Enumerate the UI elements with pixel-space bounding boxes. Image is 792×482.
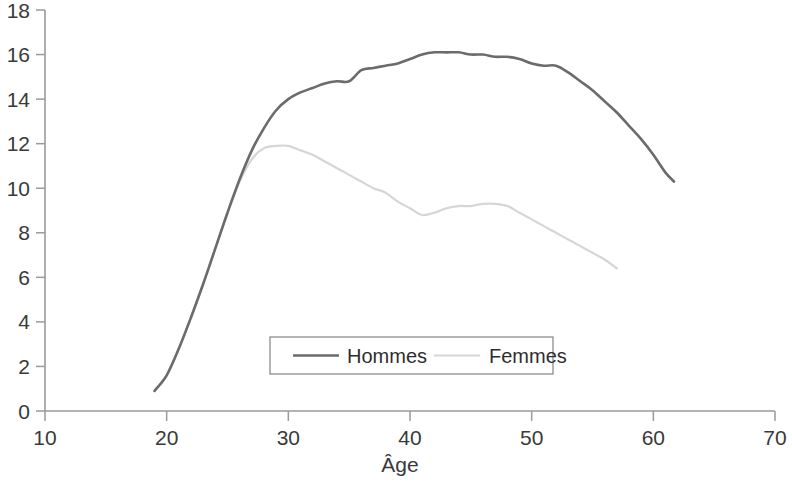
x-axis-tick-label: 10 (33, 426, 56, 449)
y-axis-tick-label: 16 (7, 43, 30, 66)
chart-canvas: 024681012141618 10203040506070 HommesFem… (0, 0, 792, 482)
x-axis-tick-label: 70 (763, 426, 786, 449)
x-axis-tick-label: 40 (398, 426, 421, 449)
x-axis-tick-label: 50 (520, 426, 543, 449)
x-axis-tick-label: 30 (277, 426, 300, 449)
x-axis-title: Âge (381, 453, 418, 476)
y-axis-tick-label: 18 (7, 0, 30, 22)
x-axis-tick-label: 60 (642, 426, 665, 449)
y-axis: 024681012141618 (7, 0, 45, 423)
y-axis-tick-label: 12 (7, 132, 30, 155)
chart-legend: HommesFemmes (270, 337, 567, 374)
y-axis-tick-label: 10 (7, 177, 30, 200)
x-axis: 10203040506070 (33, 411, 786, 449)
y-axis-tick-label: 2 (18, 355, 30, 378)
y-axis-tick-label: 4 (18, 310, 30, 333)
legend-label-hommes: Hommes (347, 345, 427, 367)
plot-area: 024681012141618 10203040506070 HommesFem… (7, 0, 787, 476)
x-axis-tick-label: 20 (155, 426, 178, 449)
y-axis-tick-label: 14 (7, 88, 31, 111)
y-axis-tick-label: 0 (18, 400, 30, 423)
legend-label-femmes: Femmes (489, 345, 567, 367)
y-axis-tick-label: 6 (18, 266, 30, 289)
line-chart-figure: 024681012141618 10203040506070 HommesFem… (0, 0, 792, 482)
y-axis-tick-label: 8 (18, 221, 30, 244)
